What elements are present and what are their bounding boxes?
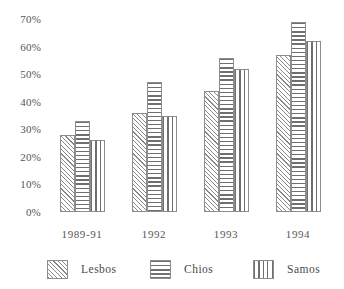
legend-label: Lesbos	[81, 263, 117, 275]
x-tick-label: 1993	[214, 228, 238, 240]
bar-lesbos-1994	[276, 55, 291, 212]
y-tick-label: 40%	[20, 96, 41, 108]
bar-chios-1994	[291, 22, 306, 212]
y-tick-label: 20%	[20, 151, 41, 163]
legend-item-samos: Samos	[253, 258, 320, 280]
bar-samos-1992	[162, 116, 177, 213]
bar-group	[276, 19, 321, 212]
plot-area	[47, 19, 335, 212]
bar-group	[60, 19, 105, 212]
legend-swatch-samos	[253, 260, 274, 279]
x-axis: 1989-91199219931994	[47, 228, 335, 252]
x-tick-label: 1989-91	[62, 228, 103, 240]
bar-samos-1989-91	[90, 140, 105, 212]
y-tick-label: 50%	[20, 68, 41, 80]
legend-label: Chios	[184, 263, 213, 275]
chart-legend: LesbosChiosSamos	[0, 258, 344, 286]
bar-lesbos-1989-91	[60, 135, 75, 212]
y-tick-label: 0%	[26, 206, 41, 218]
bar-samos-1994	[306, 41, 321, 212]
x-tick-label: 1994	[286, 228, 310, 240]
y-tick-label: 30%	[20, 123, 41, 135]
y-tick-label: 60%	[20, 41, 41, 53]
y-tick-label: 70%	[20, 13, 41, 25]
bar-chart: 0%10%20%30%40%50%60%70% 1989-91199219931…	[0, 0, 344, 289]
bar-chios-1993	[219, 58, 234, 212]
legend-swatch-chios	[150, 260, 171, 279]
bar-lesbos-1993	[204, 91, 219, 212]
legend-swatch-lesbos	[47, 260, 68, 279]
x-tick-label: 1992	[142, 228, 166, 240]
legend-label: Samos	[287, 263, 320, 275]
bar-group	[132, 19, 177, 212]
legend-item-chios: Chios	[150, 258, 213, 280]
legend-item-lesbos: Lesbos	[47, 258, 117, 280]
bar-group	[204, 19, 249, 212]
bar-samos-1993	[234, 69, 249, 212]
bar-lesbos-1992	[132, 113, 147, 212]
bar-chios-1989-91	[75, 121, 90, 212]
y-tick-label: 10%	[20, 178, 41, 190]
y-axis: 0%10%20%30%40%50%60%70%	[0, 0, 47, 231]
bar-chios-1992	[147, 82, 162, 212]
